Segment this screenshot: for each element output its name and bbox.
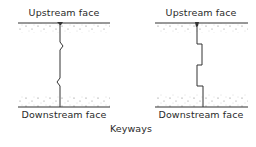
figure-caption: Keyways bbox=[110, 123, 152, 134]
upstream-concrete-left bbox=[19, 23, 110, 33]
right-keyway-panel bbox=[155, 22, 248, 107]
left-keyway-panel bbox=[18, 22, 110, 107]
downstream-concrete-left bbox=[19, 96, 110, 107]
right-downstream-face-label: Downstream face bbox=[159, 109, 244, 120]
downstream-concrete-right bbox=[156, 94, 248, 107]
right-upstream-face-label: Upstream face bbox=[166, 7, 237, 18]
joint-line-left bbox=[57, 24, 63, 107]
upstream-concrete-right bbox=[156, 23, 248, 33]
left-downstream-face-label: Downstream face bbox=[22, 109, 107, 120]
left-upstream-face-label: Upstream face bbox=[29, 7, 100, 18]
